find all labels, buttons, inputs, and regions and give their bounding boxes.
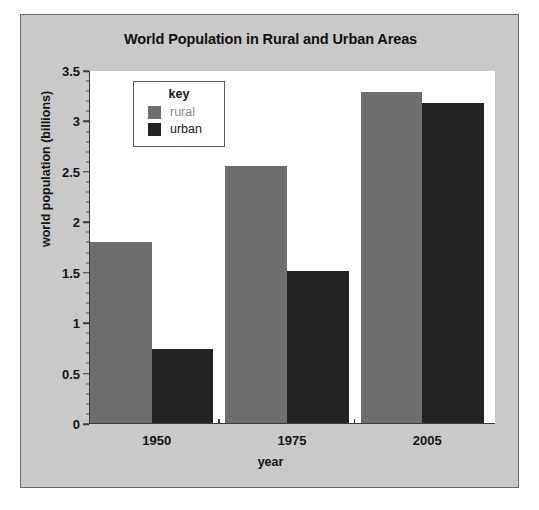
legend-title: key: [142, 87, 216, 101]
legend-item-rural: rural: [148, 105, 216, 119]
x-tick-label: 1950: [142, 433, 171, 448]
bar-2005-urban: [422, 103, 484, 423]
x-tick-separator: [218, 419, 220, 424]
y-tick-label: 2.5: [62, 164, 80, 179]
legend-item-urban: urban: [148, 122, 216, 136]
bar-1975-rural: [225, 166, 287, 423]
chart-title: World Population in Rural and Urban Area…: [21, 31, 520, 47]
bar-1950-urban: [152, 349, 214, 423]
figure-frame: World Population in Rural and Urban Area…: [20, 14, 519, 488]
legend-swatch-urban: [148, 123, 161, 136]
y-tick-label: 2: [73, 215, 80, 230]
y-tick-label: 0.5: [62, 366, 80, 381]
x-tick-separator: [354, 419, 356, 424]
bar-2005-rural: [361, 92, 423, 423]
legend-rows: ruralurban: [142, 105, 216, 136]
y-tick-label: 0: [73, 417, 80, 432]
y-tick-label: 1.5: [62, 265, 80, 280]
legend-label-rural: rural: [170, 105, 195, 119]
x-tick-label: 1975: [278, 433, 307, 448]
legend-swatch-rural: [148, 106, 161, 119]
y-tick-label: 1: [73, 316, 80, 331]
x-axis-title: year: [21, 455, 520, 469]
legend-label-urban: urban: [170, 122, 202, 136]
x-tick-label: 2005: [413, 433, 442, 448]
y-tick-label: 3: [73, 114, 80, 129]
y-tick-label: 3.5: [62, 64, 80, 79]
bar-1975-urban: [287, 271, 349, 423]
bar-1950-rural: [90, 242, 152, 423]
y-axis-ticks: 00.511.522.533.5: [21, 71, 89, 424]
legend-key-box: key ruralurban: [133, 81, 225, 147]
